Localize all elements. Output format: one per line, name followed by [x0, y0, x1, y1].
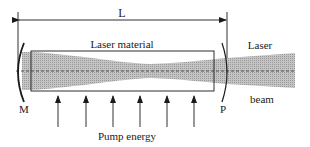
laser-material-label: Laser material	[90, 38, 153, 50]
mirror-m-label: M	[19, 103, 29, 115]
laser-resonator-diagram: L Laser material M P Laser beam Pump ene…	[0, 0, 310, 147]
pump-arrows	[58, 96, 194, 127]
mirror-p-label: P	[220, 103, 226, 115]
pump-energy-label: Pump energy	[98, 130, 157, 142]
laser-beam-label-top: Laser	[248, 39, 273, 51]
output-beam	[227, 53, 295, 88]
laser-beam-label-bottom: beam	[250, 93, 274, 105]
length-label: L	[118, 6, 125, 20]
